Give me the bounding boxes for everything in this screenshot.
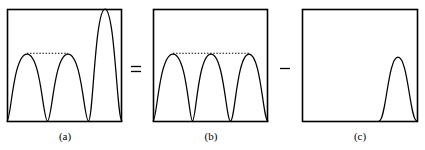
panel-a xyxy=(7,9,122,122)
panel-a-frame xyxy=(8,10,122,122)
figure-canvas xyxy=(0,0,425,150)
panel-a-curve xyxy=(7,9,122,121)
panel-c-curve xyxy=(379,57,417,121)
panel-b-curve xyxy=(153,54,268,121)
panel-b-label: (b) xyxy=(146,131,276,142)
panel-b-frame xyxy=(154,10,268,122)
panel-c xyxy=(303,10,418,122)
equals-sign xyxy=(131,67,141,72)
panel-a-label: (a) xyxy=(0,131,130,142)
figure-container: (a) (b) (c) xyxy=(0,0,425,150)
panel-b xyxy=(153,10,268,122)
panel-c-label: (c) xyxy=(295,131,425,142)
panel-c-frame xyxy=(303,10,418,122)
